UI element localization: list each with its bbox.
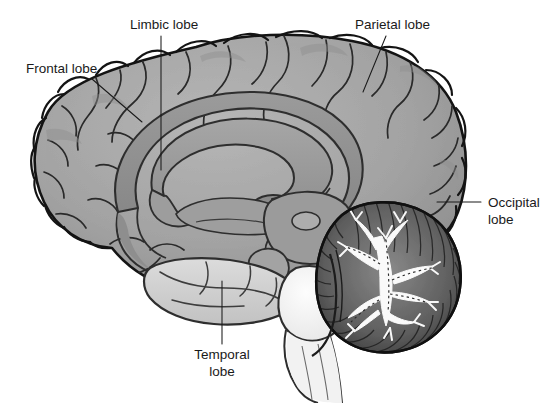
label-occipital-lobe-line1: Occipital	[488, 195, 540, 210]
massa-intermedia	[292, 212, 320, 230]
cerebellum	[311, 201, 461, 352]
brain-anatomy-figure: Frontal lobe Limbic lobe Parietal lobe O…	[0, 0, 554, 403]
label-temporal-lobe-line1: Temporal	[194, 347, 250, 362]
label-temporal-lobe-line2: lobe	[209, 364, 235, 379]
label-parietal-lobe: Parietal lobe	[355, 17, 430, 32]
label-frontal-lobe: Frontal lobe	[26, 61, 97, 76]
label-limbic-lobe: Limbic lobe	[130, 17, 198, 32]
brain-diagram-svg: Frontal lobe Limbic lobe Parietal lobe O…	[0, 0, 554, 403]
label-occipital-lobe-line2: lobe	[488, 212, 514, 227]
